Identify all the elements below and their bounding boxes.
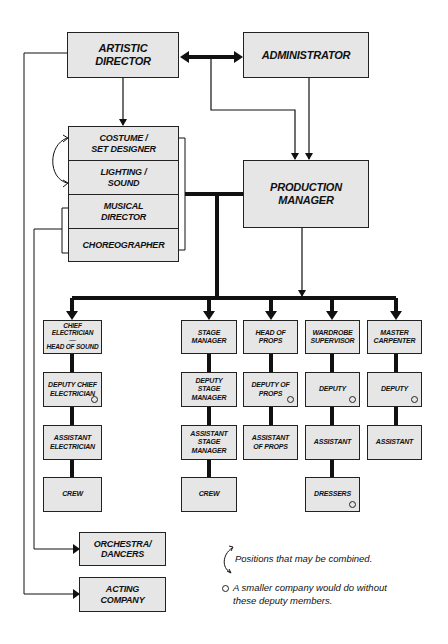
production-manager-box: Production Manager: [243, 160, 369, 228]
deputy-chief-electrician-box: Deputy Chief Electrician: [43, 372, 102, 407]
production-manager-label: Production Manager: [270, 181, 342, 206]
assistant-electrician-box: Assistant Electrician: [43, 425, 102, 460]
chief-electrician-label: Chief Electrician — Head of Sound: [47, 323, 99, 350]
assistant-of-props-label: Assistant of Props: [252, 434, 289, 450]
deputy-of-props-box: Deputy of Props: [243, 372, 298, 407]
deputy-stage-manager-label: Deputy Stage Manager: [192, 377, 227, 401]
electrics-crew-label: Crew: [62, 490, 83, 498]
assistant-stage-manager-label: Assistant Stage Manager: [190, 430, 227, 454]
carpentry-assistant-label: Assistant: [376, 438, 413, 446]
wardrobe-assistant-label: Assistant: [314, 438, 351, 446]
musical-director-label: Musical Director: [101, 201, 146, 222]
stage-manager-label: Stage Manager: [192, 329, 227, 345]
acting-company-box: Acting Company: [79, 577, 166, 612]
assistant-of-props-box: Assistant of Props: [243, 425, 298, 460]
dressers-label: Dressers: [314, 490, 351, 498]
assistant-stage-manager-box: Assistant Stage Manager: [181, 425, 237, 460]
wardrobe-deputy-label: Deputy: [319, 385, 346, 393]
chief-electrician-box: Chief Electrician — Head of Sound: [43, 320, 102, 354]
legend-deputy-text: A smaller company would do without these…: [233, 582, 402, 608]
artistic-director-box: Artistic Director: [67, 32, 179, 78]
dressers-box: Dressers: [305, 477, 360, 512]
costume-set-designer-box: Costume / Set Designer: [68, 126, 179, 161]
stage-crew-label: Crew: [199, 490, 220, 498]
choreographer-label: Choreographer: [83, 240, 165, 250]
assistant-electrician-label: Assistant Electrician: [50, 434, 95, 450]
carpentry-deputy-label: Deputy: [381, 385, 408, 393]
choreographer-box: Choreographer: [68, 228, 179, 262]
master-carpenter-label: Master Carpenter: [374, 329, 416, 345]
deputy-chief-electrician-label: Deputy Chief Electrician: [48, 381, 97, 397]
stage-crew-box: Crew: [181, 477, 237, 512]
administrator-box: Administrator: [243, 32, 369, 78]
lighting-sound-box: Lighting / Sound: [68, 160, 179, 195]
electrics-crew-box: Crew: [43, 477, 102, 512]
optional-deputy-icon: [411, 396, 418, 403]
wardrobe-supervisor-box: Wardrobe Supervisor: [305, 320, 360, 354]
legend-deputy: A smaller company would do without these…: [222, 582, 402, 608]
wardrobe-supervisor-label: Wardrobe Supervisor: [311, 329, 355, 345]
costume-set-designer-label: Costume / Set Designer: [91, 133, 156, 154]
artistic-director-label: Artistic Director: [95, 42, 151, 67]
lighting-sound-label: Lighting / Sound: [101, 167, 147, 188]
master-carpenter-box: Master Carpenter: [367, 320, 422, 354]
stage-manager-box: Stage Manager: [181, 320, 237, 354]
optional-deputy-icon: [349, 501, 356, 508]
head-of-props-label: Head of Props: [255, 329, 285, 345]
optional-deputy-icon: [222, 585, 229, 592]
musical-director-box: Musical Director: [68, 194, 179, 229]
orchestra-dancers-box: Orchestra/ Dancers: [79, 532, 166, 566]
optional-deputy-icon: [287, 396, 294, 403]
optional-deputy-icon: [349, 396, 356, 403]
deputy-stage-manager-box: Deputy Stage Manager: [181, 372, 237, 407]
org-chart: Artistic Director Administrator Producti…: [0, 0, 448, 644]
wardrobe-assistant-box: Assistant: [305, 425, 360, 460]
wardrobe-deputy-box: Deputy: [305, 372, 360, 407]
legend-combined-text: Positions that may be combined.: [235, 553, 372, 564]
carpentry-deputy-box: Deputy: [367, 372, 422, 407]
head-of-props-box: Head of Props: [243, 320, 298, 354]
optional-deputy-icon: [91, 396, 98, 403]
carpentry-assistant-box: Assistant: [367, 425, 422, 460]
legend-combined: Positions that may be combined.: [235, 553, 435, 566]
administrator-label: Administrator: [262, 49, 351, 62]
deputy-of-props-label: Deputy of Props: [251, 381, 289, 397]
acting-company-label: Acting Company: [101, 584, 145, 605]
orchestra-dancers-label: Orchestra/ Dancers: [94, 539, 152, 560]
